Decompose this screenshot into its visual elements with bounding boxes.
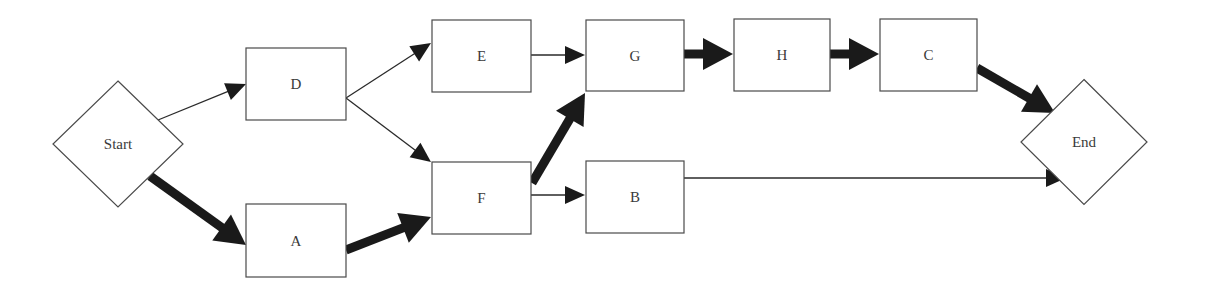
node-label: D bbox=[291, 76, 302, 92]
edge-e-to-g bbox=[531, 46, 585, 64]
node-c[interactable]: C bbox=[880, 19, 977, 91]
node-d[interactable]: D bbox=[246, 48, 346, 120]
node-label: F bbox=[477, 190, 485, 206]
edge-h-to-c bbox=[830, 38, 879, 70]
arrowhead-icon bbox=[565, 46, 585, 64]
arrowhead-icon bbox=[565, 186, 585, 204]
node-label: G bbox=[630, 48, 641, 64]
edge-start-to-d bbox=[158, 83, 246, 120]
node-label: C bbox=[923, 47, 933, 63]
edge-d-to-f bbox=[346, 98, 431, 162]
network-diagram: StartDAEFGBHCEnd bbox=[0, 0, 1217, 288]
arrowhead-icon bbox=[849, 38, 879, 70]
node-label: End bbox=[1072, 134, 1097, 150]
node-label: Start bbox=[104, 136, 133, 152]
edge-a-to-f bbox=[346, 213, 431, 250]
edge-g-to-h bbox=[684, 38, 733, 70]
node-label: A bbox=[291, 233, 302, 249]
edge-b-to-end bbox=[684, 169, 1066, 187]
arrowhead-icon bbox=[409, 43, 431, 61]
node-e[interactable]: E bbox=[432, 20, 531, 92]
node-h[interactable]: H bbox=[734, 19, 830, 91]
edge-d-to-e bbox=[346, 43, 431, 98]
node-label: H bbox=[777, 47, 788, 63]
node-label: B bbox=[630, 189, 640, 205]
node-b[interactable]: B bbox=[586, 161, 684, 233]
edge-f-to-g bbox=[532, 93, 585, 183]
node-f[interactable]: F bbox=[432, 162, 531, 234]
edge-f-to-b bbox=[531, 186, 585, 204]
node-a[interactable]: A bbox=[246, 204, 346, 277]
arrowhead-icon bbox=[703, 38, 733, 70]
edge-start-to-a bbox=[150, 176, 246, 245]
node-label: E bbox=[477, 48, 486, 64]
node-g[interactable]: G bbox=[586, 20, 684, 91]
arrowhead-icon bbox=[410, 143, 431, 162]
edge-c-to-end bbox=[977, 68, 1055, 113]
